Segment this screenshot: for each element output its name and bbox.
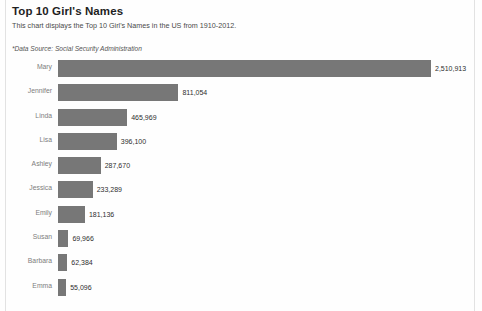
category-label: Barbara xyxy=(0,256,52,265)
bar-track: 2,510,913 xyxy=(58,60,478,77)
bar-value-label: 233,289 xyxy=(97,185,122,194)
bar[interactable] xyxy=(58,206,85,223)
category-label: Susan xyxy=(0,232,52,241)
bar-value-label: 811,054 xyxy=(182,88,207,97)
bar-track: 181,136 xyxy=(58,206,478,223)
bar[interactable] xyxy=(58,109,127,126)
category-label: Jessica xyxy=(0,183,52,192)
chart-row: Mary2,510,913 xyxy=(0,58,482,82)
bar[interactable] xyxy=(58,60,431,77)
bar-track: 811,054 xyxy=(58,84,478,101)
bar-value-label: 55,096 xyxy=(70,283,91,292)
chart-row: Jessica233,289 xyxy=(0,179,482,203)
bar-value-label: 287,670 xyxy=(105,161,130,170)
chart-page: Top 10 Girl's Names This chart displays … xyxy=(0,0,482,311)
category-label: Lisa xyxy=(0,135,52,144)
bar-track: 55,096 xyxy=(58,279,478,296)
bar-track: 287,670 xyxy=(58,157,478,174)
bar[interactable] xyxy=(58,133,117,150)
category-label: Mary xyxy=(0,62,52,71)
bar[interactable] xyxy=(58,279,66,296)
chart-row: Emily181,136 xyxy=(0,204,482,228)
category-label: Emma xyxy=(0,281,52,290)
category-label: Emily xyxy=(0,208,52,217)
bar-value-label: 181,136 xyxy=(89,210,114,219)
bar-track: 396,100 xyxy=(58,133,478,150)
bar-value-label: 396,100 xyxy=(121,137,146,146)
bar-value-label: 2,510,913 xyxy=(435,64,466,73)
chart-subtitle: This chart displays the Top 10 Girl's Na… xyxy=(12,20,452,31)
chart-row: Barbara62,384 xyxy=(0,252,482,276)
bar-track: 62,384 xyxy=(58,254,478,271)
bar-track: 233,289 xyxy=(58,181,478,198)
bar[interactable] xyxy=(58,157,101,174)
chart-row: Lisa396,100 xyxy=(0,131,482,155)
bar-track: 465,969 xyxy=(58,109,478,126)
chart-row: Susan69,966 xyxy=(0,228,482,252)
category-label: Linda xyxy=(0,111,52,120)
page-title: Top 10 Girl's Names xyxy=(12,4,452,18)
bar-value-label: 465,969 xyxy=(131,113,156,122)
chart-header: Top 10 Girl's Names This chart displays … xyxy=(12,4,452,54)
chart-row: Emma55,096 xyxy=(0,277,482,301)
category-label: Jennifer xyxy=(0,86,52,95)
chart-row: Linda465,969 xyxy=(0,107,482,131)
bar-value-label: 62,384 xyxy=(71,258,92,267)
chart-row: Jennifer811,054 xyxy=(0,82,482,106)
bar[interactable] xyxy=(58,230,68,247)
chart-row: Ashley287,670 xyxy=(0,155,482,179)
bar[interactable] xyxy=(58,181,93,198)
bar[interactable] xyxy=(58,84,178,101)
data-source-note: *Data Source: Social Security Administra… xyxy=(12,44,452,54)
category-label: Ashley xyxy=(0,159,52,168)
bar-track: 69,966 xyxy=(58,230,478,247)
bar-value-label: 69,966 xyxy=(72,234,93,243)
bar-chart: Mary2,510,913Jennifer811,054Linda465,969… xyxy=(0,58,482,301)
bar[interactable] xyxy=(58,254,67,271)
